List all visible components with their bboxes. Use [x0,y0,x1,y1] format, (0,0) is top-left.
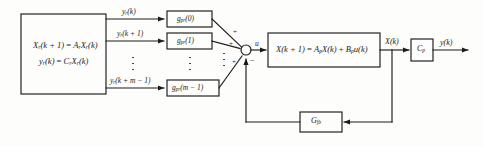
sum-input-line-0 [212,19,242,47]
gfb-label: Gfb [311,117,321,126]
ellipsis-gain-blocks [188,57,192,70]
cp-label: Cp [417,45,425,54]
sum-sign-plus-1: + [229,41,233,48]
summing-junction-circle [241,45,251,55]
label-yr-kmm1: yr(k + m − 1) [110,77,150,85]
label-u: u [255,40,259,48]
gpr-m-1-label: gpr(m − 1) [172,84,203,92]
sum-sign-minus: − [250,57,255,65]
label-xk: X(k) [385,38,399,46]
label-yr-k: yr(k) [122,8,136,16]
ellipsis-signals [131,57,135,70]
sum-sign-plus-2: + [232,59,236,66]
plant-equation: X(k + 1) = ApX(k) + Bpu(k) [276,45,367,55]
reference-model-rect [21,14,106,94]
sum-sign-plus-0: + [233,29,237,36]
gpr-1-label: gpr(1) [177,37,194,45]
gpr-0-label: gpr(0) [177,15,194,23]
ellipsis-sum-inputs [222,53,226,66]
diagram-vector-layer [0,0,483,147]
reference-model-equation-1: Xr(k + 1) = ArXr(k) [33,41,98,51]
label-yk: y(k) [440,39,452,47]
reference-model-equation-2: yr(k) = CrXr(k) [39,57,88,67]
block-diagram-canvas: Xr(k + 1) = ArXr(k) yr(k) = CrXr(k) yr(k… [0,0,483,147]
label-yr-k1: yr(k + 1) [117,30,143,38]
